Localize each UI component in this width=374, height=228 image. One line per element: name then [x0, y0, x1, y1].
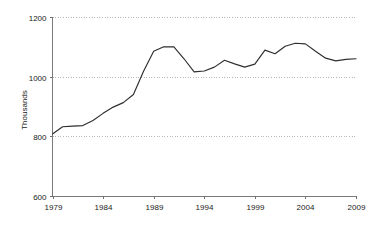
y-tick-label: 1200: [29, 14, 47, 23]
y-tick-label: 600: [33, 193, 47, 202]
chart-canvas: 60080010001200 1979198419891994199920042…: [0, 0, 374, 228]
x-tick-label: 1994: [196, 203, 214, 212]
x-tick-label: 1999: [247, 203, 265, 212]
x-tick-label: 2004: [297, 203, 315, 212]
x-tick-label: 1979: [45, 203, 63, 212]
y-tick-label: 1000: [29, 74, 47, 83]
x-tick-label: 1984: [95, 203, 113, 212]
x-tick-label: 1989: [146, 203, 164, 212]
x-tick-label: 2009: [348, 203, 366, 212]
line-chart-figure: 60080010001200 1979198419891994199920042…: [0, 0, 374, 228]
y-tick-label: 800: [33, 133, 47, 142]
chart-background: [0, 0, 374, 228]
y-axis-title: Thousands: [20, 90, 29, 130]
